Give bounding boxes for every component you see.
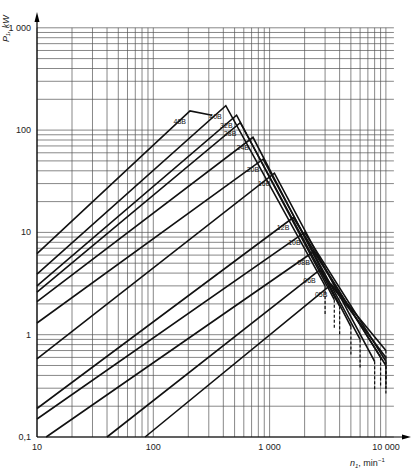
y-tick-label: 1 [26,330,31,340]
curve-label: 10B [288,239,301,246]
curve-label: 08B [297,259,310,266]
curve-label: 28B [224,130,237,137]
grid-lines [37,28,394,437]
curve-label: 48B [174,118,187,125]
x-axis-arrow-icon [402,435,411,440]
y-tick-label: 0,1 [18,432,31,442]
curve-label: 24B [237,144,250,151]
chart-svg: 48B40B32B28B24B20B16B12B10B08B06B05B 101… [0,0,413,474]
y-axis-arrow-icon [35,12,40,22]
y-axis-label: P₁, kW [1,14,11,42]
x-tick-label: 1 000 [258,442,281,452]
curve-20B [37,159,360,339]
curve-label: 05B [315,291,328,298]
curve-label: 32B [220,122,233,129]
y-tick-label: 1 000 [8,23,31,33]
curve-05B [145,284,386,437]
x-tick-label: 10 [32,442,42,452]
curve-label: 06B [303,277,316,284]
y-tick-label: 10 [21,227,31,237]
x-tick-label: 100 [146,442,161,452]
curve-label: 40B [209,113,222,120]
curve-40B [37,106,325,286]
curve-label: 12B [277,224,290,231]
curves [37,106,386,437]
y-tick-label: 100 [16,125,31,135]
curve-label: 20B [247,166,260,173]
curve-10B [37,232,386,419]
x-axis-label: n1, min−1 [350,457,385,469]
x-tick-label: 10 000 [372,442,400,452]
curve-label: 16B [258,180,271,187]
